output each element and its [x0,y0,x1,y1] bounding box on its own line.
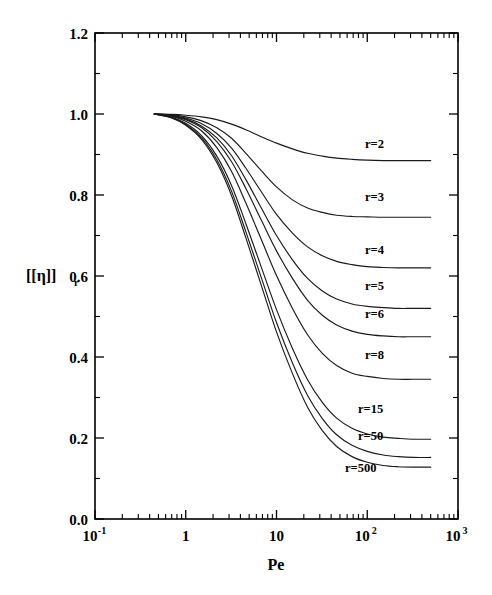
y-tick-label: 0.8 [69,188,88,204]
x-tick-label-exponent: 2 [372,525,377,536]
series-label-r-50: r=50 [358,429,383,443]
y-tick-label: 1.2 [69,26,88,42]
x-tick-label-mantissa: 10 [446,528,461,544]
x-axis-title: Pe [268,556,285,573]
x-tick-label: 1 [182,528,190,544]
series-label-r-2: r=2 [365,137,384,151]
figure-container: 10-1110102103 0.00.20.40.60.81.01.2 r=2r… [0,0,492,595]
chart-background [0,0,492,595]
series-label-r-3: r=3 [365,190,384,204]
series-label-r-4: r=4 [365,243,385,257]
series-label-r-500: r=500 [345,461,376,475]
x-tick-label-text: 1 [182,528,190,544]
y-tick-label: 0.0 [69,512,88,528]
series-label-r-15: r=15 [358,402,383,416]
y-tick-label: 0.4 [69,350,88,366]
x-tick-label-exponent: -1 [98,525,106,536]
viscosity-vs-peclet-chart: 10-1110102103 0.00.20.40.60.81.01.2 r=2r… [0,0,492,595]
series-label-r-8: r=8 [365,348,384,362]
x-tick-label-text: 10 [269,528,284,544]
series-label-r-5: r=5 [365,279,384,293]
y-tick-label: 0.6 [69,269,88,285]
y-axis-title-main: [[η]] [26,267,56,285]
y-tick-label: 0.2 [69,431,88,447]
y-tick-label: 1.0 [69,107,88,123]
y-axis-title-subscript: r [74,277,79,288]
x-tick-label: 10 [269,528,284,544]
x-tick-label-exponent: 3 [463,525,468,536]
x-tick-label-mantissa: 10 [355,528,370,544]
x-tick-label-mantissa: 10 [83,528,98,544]
series-label-r-6: r=6 [365,307,384,321]
